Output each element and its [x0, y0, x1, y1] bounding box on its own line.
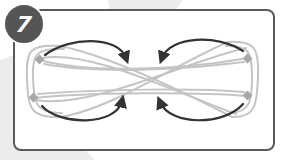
step-number: 7 — [15, 12, 33, 37]
step-number-badge: 7 — [3, 3, 45, 45]
